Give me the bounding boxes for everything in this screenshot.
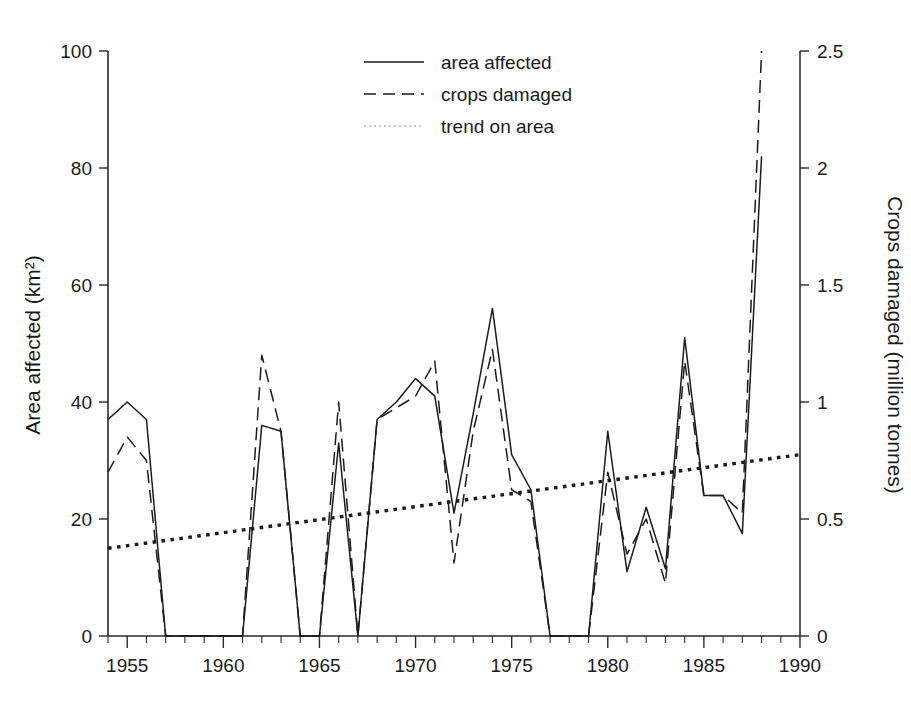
y-tick-label-left: 100 xyxy=(60,41,92,62)
series-area-affected xyxy=(108,156,762,636)
series-crops-damaged xyxy=(108,51,762,636)
series-trend-on-area xyxy=(108,455,800,549)
x-axis-minor-ticks xyxy=(108,636,781,643)
y-tick-label-right: 0.5 xyxy=(817,509,843,530)
y-axis-right-ticks: 00.511.522.5 xyxy=(800,41,843,647)
legend-label-area-affected: area affected xyxy=(441,52,552,73)
y-tick-label-left: 80 xyxy=(71,158,92,179)
x-axis-major-ticks: 19551960196519701975198019851990 xyxy=(106,636,821,676)
x-tick-label: 1965 xyxy=(298,655,340,676)
y-axis-left-ticks: 020406080100 xyxy=(60,41,108,647)
x-tick-label: 1970 xyxy=(394,655,436,676)
plot-axes xyxy=(108,51,800,636)
x-tick-label: 1955 xyxy=(106,655,148,676)
y-tick-label-left: 60 xyxy=(71,275,92,296)
y-tick-label-right: 2 xyxy=(817,158,828,179)
legend-label-crops-damaged: crops damaged xyxy=(441,84,572,105)
chart-figure: 020406080100 00.511.522.5 19551960196519… xyxy=(0,0,911,715)
y-tick-label-left: 20 xyxy=(71,509,92,530)
y-axis-left-title-group: Area affected (km²) xyxy=(21,255,44,434)
y-axis-left-title: Area affected (km²) xyxy=(21,255,44,434)
legend-label-trend-on-area: trend on area xyxy=(441,116,554,137)
y-tick-label-right: 0 xyxy=(817,626,828,647)
chart-legend: area affected crops damaged trend on are… xyxy=(364,52,572,137)
y-axis-right-title-group: Crops damaged (million tonnes) xyxy=(884,196,907,494)
y-tick-label-right: 1 xyxy=(817,392,828,413)
y-tick-label-left: 0 xyxy=(81,626,92,647)
y-tick-label-right: 2.5 xyxy=(817,41,843,62)
y-axis-right-title: Crops damaged (million tonnes) xyxy=(884,196,907,494)
x-tick-label: 1990 xyxy=(779,655,821,676)
x-tick-label: 1985 xyxy=(683,655,725,676)
y-tick-label-right: 1.5 xyxy=(817,275,843,296)
line-chart: 020406080100 00.511.522.5 19551960196519… xyxy=(0,0,911,715)
data-series-group xyxy=(108,51,800,636)
x-tick-label: 1975 xyxy=(491,655,533,676)
x-tick-label: 1980 xyxy=(587,655,629,676)
x-tick-label: 1960 xyxy=(202,655,244,676)
y-tick-label-left: 40 xyxy=(71,392,92,413)
